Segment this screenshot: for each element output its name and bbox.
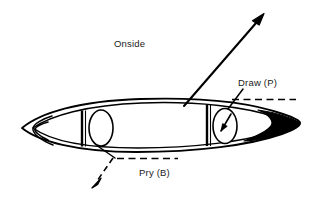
draw-label: Draw (P) (238, 77, 277, 88)
canoe-stroke-diagram: Draw (P) Pry (B) Onside (0, 0, 314, 224)
pry-arrow-head (92, 178, 101, 188)
pry-label: Pry (B) (139, 167, 170, 178)
onside-label: Onside (114, 38, 145, 49)
onside-arrow (184, 14, 264, 107)
pry-dashed-arrow-shaft (97, 158, 113, 181)
figure-canvas: Draw (P) Pry (B) Onside (0, 0, 314, 224)
hull-outer-outline (22, 99, 300, 152)
canoe-hull (22, 99, 300, 152)
seat-stern (89, 110, 113, 146)
